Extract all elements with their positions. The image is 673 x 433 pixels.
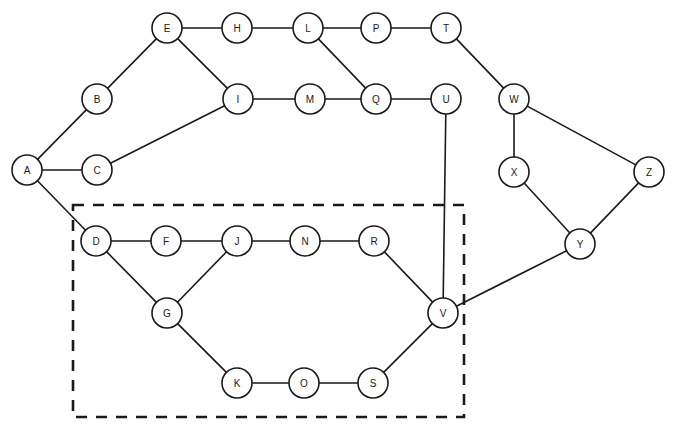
graph-node-A[interactable]: A — [12, 155, 42, 185]
node-circle-N[interactable] — [290, 226, 320, 256]
node-circle-G[interactable] — [152, 298, 182, 328]
graph-node-J[interactable]: J — [222, 226, 252, 256]
node-circle-W[interactable] — [499, 84, 529, 114]
graph-node-K[interactable]: K — [222, 368, 252, 398]
node-circle-D[interactable] — [81, 226, 111, 256]
node-circle-O[interactable] — [289, 368, 319, 398]
graph-edge-T-W[interactable] — [456, 39, 503, 88]
node-circle-B[interactable] — [82, 84, 112, 114]
graph-node-I[interactable]: I — [223, 84, 253, 114]
graph-edge-C-I[interactable] — [110, 106, 224, 164]
node-circle-I[interactable] — [223, 84, 253, 114]
graph-edge-G-K[interactable] — [178, 324, 227, 373]
graph-node-H[interactable]: H — [222, 13, 252, 43]
graph-edge-D-G[interactable] — [107, 252, 157, 303]
node-circle-U[interactable] — [431, 84, 461, 114]
graph-canvas: ABCDEFGHIJKLMNOPQRSTUVWXYZ — [0, 0, 673, 433]
node-circle-H[interactable] — [222, 13, 252, 43]
graph-edge-E-I[interactable] — [178, 39, 228, 89]
node-circle-L[interactable] — [293, 13, 323, 43]
selection-layer — [73, 205, 464, 417]
node-circle-T[interactable] — [431, 13, 461, 43]
node-circle-Z[interactable] — [634, 157, 664, 187]
graph-node-M[interactable]: M — [295, 84, 325, 114]
node-circle-S[interactable] — [358, 368, 388, 398]
graph-node-L[interactable]: L — [293, 13, 323, 43]
graph-node-W[interactable]: W — [499, 84, 529, 114]
node-circle-E[interactable] — [152, 13, 182, 43]
graph-node-N[interactable]: N — [290, 226, 320, 256]
graph-node-E[interactable]: E — [152, 13, 182, 43]
graph-edge-S-V[interactable] — [384, 324, 433, 373]
node-circle-Y[interactable] — [565, 229, 595, 259]
graph-edge-W-Z[interactable] — [527, 106, 636, 165]
graph-node-C[interactable]: C — [82, 155, 112, 185]
graph-node-U[interactable]: U — [431, 84, 461, 114]
node-circle-R[interactable] — [359, 226, 389, 256]
node-circle-K[interactable] — [222, 368, 252, 398]
node-circle-P[interactable] — [361, 13, 391, 43]
graph-edge-R-V[interactable] — [384, 252, 432, 302]
graph-node-V[interactable]: V — [428, 298, 458, 328]
graph-node-B[interactable]: B — [82, 84, 112, 114]
graph-node-Y[interactable]: Y — [565, 229, 595, 259]
graph-edge-Y-Z[interactable] — [590, 183, 638, 233]
graph-edge-A-B[interactable] — [38, 110, 87, 160]
graph-node-X[interactable]: X — [499, 157, 529, 187]
graph-edge-G-J[interactable] — [177, 252, 226, 303]
graph-node-F[interactable]: F — [151, 226, 181, 256]
graph-edge-X-Y[interactable] — [524, 183, 570, 233]
graph-node-T[interactable]: T — [431, 13, 461, 43]
node-circle-J[interactable] — [222, 226, 252, 256]
node-circle-X[interactable] — [499, 157, 529, 187]
graph-node-Q[interactable]: Q — [361, 84, 391, 114]
graph-node-G[interactable]: G — [152, 298, 182, 328]
node-circle-M[interactable] — [295, 84, 325, 114]
graph-node-O[interactable]: O — [289, 368, 319, 398]
node-circle-Q[interactable] — [361, 84, 391, 114]
node-circle-F[interactable] — [151, 226, 181, 256]
node-circle-V[interactable] — [428, 298, 458, 328]
node-circle-A[interactable] — [12, 155, 42, 185]
graph-node-Z[interactable]: Z — [634, 157, 664, 187]
graph-node-P[interactable]: P — [361, 13, 391, 43]
graph-node-D[interactable]: D — [81, 226, 111, 256]
graph-edge-V-Y[interactable] — [456, 251, 566, 307]
node-circle-C[interactable] — [82, 155, 112, 185]
graph-node-S[interactable]: S — [358, 368, 388, 398]
dashed-selection-boundary[interactable] — [73, 205, 464, 417]
graph-diagram: ABCDEFGHIJKLMNOPQRSTUVWXYZ — [0, 0, 673, 433]
graph-edge-B-E[interactable] — [108, 39, 157, 89]
graph-node-R[interactable]: R — [359, 226, 389, 256]
graph-edge-L-Q[interactable] — [318, 39, 365, 88]
